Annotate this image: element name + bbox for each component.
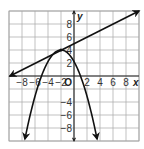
x-tick-label: 6 xyxy=(110,77,116,88)
x-tick-label: 4 xyxy=(97,77,103,88)
y-tick-label: −8 xyxy=(61,123,73,134)
x-axis-label: x xyxy=(132,77,139,88)
coordinate-plane-graph: −8−6−4−224688642−4−6−8Oxy xyxy=(0,0,144,149)
y-tick-label: −4 xyxy=(61,97,73,108)
y-tick-label: 6 xyxy=(66,32,72,43)
y-tick-label: 8 xyxy=(66,19,72,30)
y-tick-label: 2 xyxy=(66,58,72,69)
y-axis-label: y xyxy=(76,11,83,22)
x-tick-label: −4 xyxy=(42,77,54,88)
x-tick-label: −8 xyxy=(16,77,28,88)
intersection-point xyxy=(59,48,62,51)
y-tick-label: −6 xyxy=(61,110,73,121)
x-tick-label: 2 xyxy=(84,77,90,88)
x-tick-label: 8 xyxy=(123,77,129,88)
origin-label: O xyxy=(64,77,72,88)
